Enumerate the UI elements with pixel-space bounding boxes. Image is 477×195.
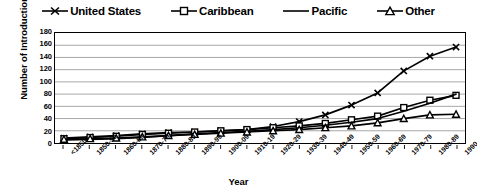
legend-label: Pacific [311, 5, 347, 17]
x-tick-label: 1940-49 [332, 151, 337, 156]
x-tick-label: 1990-99 [463, 151, 468, 156]
legend-item-united-states[interactable]: United States [42, 5, 141, 17]
chart-container: United StatesCaribbeanPacificOther Numbe… [0, 0, 477, 195]
x-tick-label: 1980-89 [437, 151, 442, 156]
x-tick-label: 1900-09 [227, 151, 232, 156]
x-axis-title: Year [0, 176, 477, 187]
x-tick-label: 1860-69 [122, 151, 127, 156]
legend-label: United States [70, 5, 141, 17]
x-tick-label: <1850 [69, 151, 74, 156]
y-tick-label: 80 [28, 90, 52, 98]
triangle-icon [377, 5, 403, 17]
line-icon [283, 5, 309, 17]
chart-legend: United StatesCaribbeanPacificOther [0, 2, 477, 20]
square-icon [171, 5, 197, 17]
plot-area [54, 32, 466, 144]
legend-item-caribbean[interactable]: Caribbean [171, 5, 253, 17]
x-tick-label: 1930-39 [305, 151, 310, 156]
x-tick-label: 1890-99 [200, 151, 205, 156]
x-tick-label: 1910-19 [253, 151, 258, 156]
x-tick-label: 1920-29 [279, 151, 284, 156]
y-tick-label: 20 [28, 128, 52, 136]
x-tick-label: 1960-69 [384, 151, 389, 156]
y-tick-label: 120 [28, 66, 52, 74]
x-tick-label: 1970-79 [410, 151, 415, 156]
y-tick-label: 180 [28, 28, 52, 36]
x-tick-label: 1950-59 [358, 151, 363, 156]
y-tick-label: 40 [28, 115, 52, 123]
y-axis-tick-labels: 020406080100120140160180 [28, 0, 52, 195]
legend-label: Caribbean [199, 5, 253, 17]
y-axis-title: Number of Introductions [18, 0, 29, 116]
x-tick-label: 1850-59 [95, 151, 100, 156]
legend-item-pacific[interactable]: Pacific [283, 5, 347, 17]
y-tick-label: 100 [28, 78, 52, 86]
x-tick-label: 1870-79 [148, 151, 153, 156]
y-tick-label: 140 [28, 53, 52, 61]
y-tick-label: 60 [28, 103, 52, 111]
y-tick-label: 0 [28, 140, 52, 148]
chart-lines [55, 33, 465, 143]
x-tick-label: 1880-89 [174, 151, 179, 156]
x-axis-tick-labels: <18501850-591860-691870-791880-891890-99… [54, 145, 466, 175]
y-tick-label: 160 [28, 41, 52, 49]
legend-item-other[interactable]: Other [377, 5, 435, 17]
legend-label: Other [405, 5, 435, 17]
